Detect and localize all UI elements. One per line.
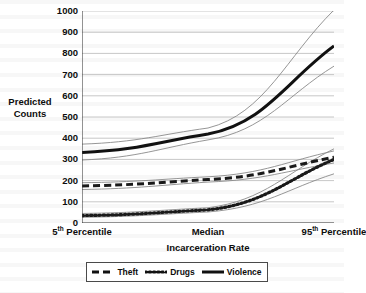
legend-label: Drugs — [170, 267, 195, 277]
y-axis-tick-label: 1000 — [44, 6, 78, 16]
legend-item-theft[interactable]: Theft — [92, 267, 138, 277]
y-axis-tick-label: 400 — [44, 133, 78, 143]
x-axis-tick-label: Median — [192, 226, 225, 237]
x-axis-tick-label: 95th Percentile — [302, 226, 366, 237]
y-axis-tick-label: 100 — [44, 197, 78, 207]
y-axis-tick-labels: 10009008007006005004003002001000 — [42, 0, 78, 293]
legend-swatch-dotted — [145, 268, 167, 276]
x-axis-tick-labels: 5th PercentileMedian95th Percentile — [60, 226, 344, 242]
ordinal-suffix: th — [58, 225, 64, 232]
confidence-band-drugs — [82, 149, 334, 214]
legend-item-violence[interactable]: Violence — [202, 267, 262, 277]
series-line-violence — [82, 46, 334, 152]
legend-swatch-solid — [202, 268, 224, 276]
y-axis-tick-label: 600 — [44, 91, 78, 101]
x-axis-title: Incarceration Rate — [82, 242, 334, 253]
series-line-drugs — [82, 159, 334, 215]
plot-area — [82, 11, 334, 223]
y-axis-tick-label: 200 — [44, 176, 78, 186]
legend-label: Theft — [117, 267, 138, 277]
x-axis-tick-label: 5th Percentile — [52, 226, 112, 237]
plot-svg — [82, 11, 334, 223]
y-axis-tick-label: 800 — [44, 48, 78, 58]
legend-label: Violence — [227, 267, 262, 277]
y-axis-tick-label: 900 — [44, 27, 78, 37]
ordinal-suffix: th — [312, 225, 318, 232]
legend-swatch-dashed — [92, 268, 114, 276]
y-axis-tick-label: 500 — [44, 112, 78, 122]
y-axis-tick-label: 700 — [44, 70, 78, 80]
y-axis-tick-label: 300 — [44, 154, 78, 164]
chart-legend: TheftDrugsViolence — [86, 262, 268, 282]
legend-item-drugs[interactable]: Drugs — [145, 267, 195, 277]
